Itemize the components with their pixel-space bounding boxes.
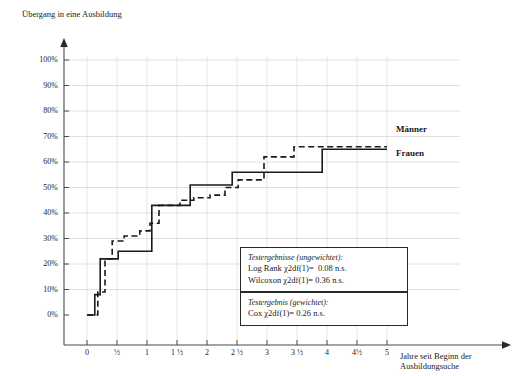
y-axis-tick-label: 20% bbox=[28, 259, 58, 268]
x-axis-tick-label: 3 ½ bbox=[284, 348, 310, 357]
x-axis-tick-label: 2 ½ bbox=[224, 348, 250, 357]
x-axis-tick-label: 1 ½ bbox=[164, 348, 190, 357]
annotation-header: Testergebnis (gewichtet): bbox=[248, 297, 400, 308]
annotation-line: Log Rank χ2df(1)= 0.08 n.s. bbox=[248, 263, 400, 275]
x-axis-title: Jahre seit Beginn der Ausbildungsuche bbox=[400, 340, 527, 372]
x-axis-tick-label: 0 bbox=[74, 348, 100, 357]
x-axis-tick-label: ½ bbox=[104, 348, 130, 357]
y-axis-tick-label: 80% bbox=[28, 106, 58, 115]
x-axis-tick-label: 1 bbox=[134, 348, 160, 357]
chart-canvas: Übergang in eine Ausbildung 0%10%20%30%4… bbox=[0, 0, 527, 376]
series-label-frauen: Frauen bbox=[396, 148, 424, 158]
y-axis-tick-label: 30% bbox=[28, 234, 58, 243]
x-axis-tick-label: 3 bbox=[254, 348, 280, 357]
annotation-line: Cox χ2df(1)= 0.26 n.s. bbox=[248, 308, 400, 320]
x-axis-title-text: Jahre seit Beginn der Ausbildungsuche bbox=[400, 351, 472, 372]
annotation-box-ungewichtet: Testergebnisse (ungewichtet): Log Rank χ… bbox=[240, 247, 408, 292]
y-axis-tick-label: 100% bbox=[28, 55, 58, 64]
y-axis-tick-label: 90% bbox=[28, 81, 58, 90]
y-axis-tick-label: 50% bbox=[28, 183, 58, 192]
y-axis-tick-label: 0% bbox=[28, 310, 58, 319]
x-axis-tick-label: 4½ bbox=[344, 348, 370, 357]
x-axis-tick-label: 5 bbox=[374, 348, 400, 357]
x-axis-tick-label: 4 bbox=[314, 348, 340, 357]
y-axis-tick-label: 10% bbox=[28, 285, 58, 294]
annotation-box-gewichtet: Testergebnis (gewichtet): Cox χ2df(1)= 0… bbox=[240, 292, 408, 326]
annotation-line: Wilcoxon χ2df(1)= 0.36 n.s. bbox=[248, 275, 400, 287]
y-axis-tick-label: 40% bbox=[28, 208, 58, 217]
x-axis-tick-label: 2 bbox=[194, 348, 220, 357]
series-label-maenner: Männer bbox=[396, 124, 427, 134]
y-axis-tick-label: 60% bbox=[28, 157, 58, 166]
y-axis-tick-label: 70% bbox=[28, 132, 58, 141]
annotation-header: Testergebnisse (ungewichtet): bbox=[248, 252, 400, 263]
